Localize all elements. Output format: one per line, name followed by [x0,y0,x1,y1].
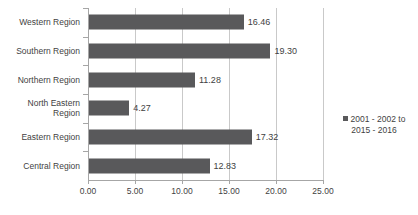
legend-swatch-icon [343,116,348,121]
bar-value-label: 16.46 [248,17,271,27]
bar-value-label: 12.83 [214,161,237,171]
x-axis-ticks: 0.00 5.00 10.00 15.00 20.00 25.00 [0,180,418,202]
y-tick-mark [83,65,88,66]
category-label: North Eastern Region [0,98,80,118]
category-label: Central Region [0,161,80,171]
bar[interactable] [89,158,210,173]
y-tick-mark [83,8,88,9]
bar[interactable] [89,129,252,144]
bar-row: Northern Region 11.28 [0,65,418,94]
bar[interactable] [89,43,270,58]
category-label: Eastern Region [0,132,80,142]
category-label: Northern Region [0,75,80,85]
x-tick-label: 25.00 [312,186,333,196]
bar-value-label: 4.27 [133,103,151,113]
x-tick-label: 15.00 [218,186,239,196]
bar-chart: Western Region 16.46 Southern Region 19.… [0,0,418,215]
y-tick-mark [83,37,88,38]
bar-row: Central Region 12.83 [0,151,418,180]
category-label: Western Region [0,17,80,27]
legend-label[interactable]: 2001 - 2002 to 2015 - 2016 [351,114,406,135]
x-tick-label: 20.00 [265,186,286,196]
x-tick-label: 5.00 [127,186,144,196]
x-tick-mark [323,180,324,184]
y-tick-mark [83,94,88,95]
y-tick-mark [83,151,88,152]
bar-value-label: 11.28 [199,75,221,85]
legend: 2001 - 2002 to 2015 - 2016 [330,114,418,136]
bar[interactable] [89,101,129,116]
bar[interactable] [89,15,244,30]
category-label: Southern Region [0,46,80,56]
x-tick-mark [276,180,277,184]
x-tick-mark [88,180,89,184]
x-tick-mark [135,180,136,184]
bar-value-label: 19.30 [274,46,297,56]
x-tick-label: 0.00 [80,186,97,196]
bar[interactable] [89,72,195,87]
bar-row: Western Region 16.46 [0,8,418,37]
bar-value-label: 17.32 [256,132,279,142]
y-tick-mark [83,123,88,124]
x-tick-mark [229,180,230,184]
bar-rows: Western Region 16.46 Southern Region 19.… [0,8,418,180]
x-tick-label: 10.00 [171,186,192,196]
x-tick-mark [182,180,183,184]
bar-row: Southern Region 19.30 [0,37,418,66]
